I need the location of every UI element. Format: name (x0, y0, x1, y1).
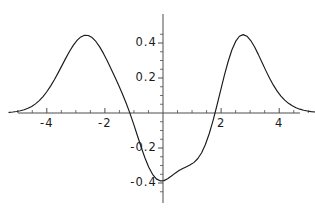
plot-figure: -4-224 0.40.2-0.2-0.4 (0, 0, 315, 209)
y-tick-label: 0.2 (135, 72, 157, 84)
plot-canvas (0, 0, 315, 209)
x-tick-label: -2 (98, 118, 112, 130)
y-tick-label: 0.4 (135, 37, 157, 49)
axis-lines (18, 14, 300, 203)
data-curve (9, 35, 315, 181)
y-tick-label: -0.2 (130, 142, 157, 154)
x-tick-label: 4 (275, 118, 283, 130)
y-tick-label: -0.4 (130, 177, 157, 189)
x-tick-label: -4 (40, 118, 54, 130)
x-tick-label: 2 (217, 118, 225, 130)
